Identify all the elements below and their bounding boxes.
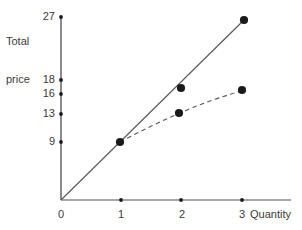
y-tick-label-18: 18 (33, 74, 55, 85)
x-tick-mark-3 (240, 198, 244, 202)
y-tick-mark-27 (59, 15, 63, 19)
y-tick-mark-13 (59, 112, 63, 116)
y-tick-mark-16 (59, 92, 63, 96)
y-tick-label-13: 13 (33, 108, 55, 119)
x-tick-label-1: 1 (114, 209, 128, 220)
x-tick-mark-2 (179, 198, 183, 202)
y-axis-title-line-1: Total (6, 35, 30, 48)
data-point-linear-3-27 (240, 16, 248, 24)
y-tick-mark-9 (59, 140, 63, 144)
y-tick-label-16: 16 (33, 88, 55, 99)
y-tick-label-27: 27 (33, 11, 55, 22)
data-point-linear-2-18 (177, 84, 185, 92)
x-tick-label-2: 2 (175, 209, 189, 220)
x-axis-title: Quantity (250, 208, 291, 221)
data-point-linear-1-9 (116, 138, 124, 146)
y-tick-label-9: 9 (33, 136, 55, 147)
y-axis-title: Total price (6, 10, 30, 110)
y-tick-mark-18 (59, 78, 63, 82)
data-point-discount-3-16 (238, 86, 246, 94)
price-quantity-chart: Total price Quantity 27 18 16 13 9 0 1 2… (0, 0, 302, 230)
x-tick-label-3: 3 (235, 209, 249, 220)
linear-price-line (61, 19, 245, 200)
y-axis-title-line-2: price (6, 73, 30, 86)
x-tick-mark-1 (119, 198, 123, 202)
x-tick-label-0: 0 (54, 209, 68, 220)
data-point-discount-2-13 (175, 109, 183, 117)
